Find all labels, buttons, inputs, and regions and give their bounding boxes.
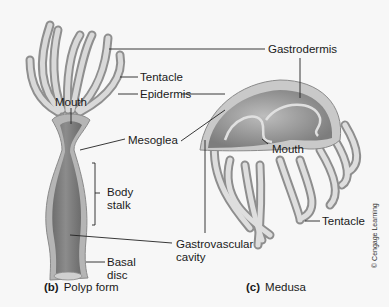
label-mouth-medusa: Mouth	[272, 143, 304, 156]
caption-polyp: (b)Polyp form	[44, 281, 119, 293]
label-basal-disc-line2: disc	[107, 269, 127, 281]
label-gastrovascular-line1: Gastrovascular	[176, 238, 253, 250]
label-body-stalk-line2: stalk	[107, 199, 131, 211]
caption-medusa-letter: (c)	[246, 281, 260, 293]
label-basal-disc: Basal disc	[107, 256, 136, 282]
label-epidermis: Epidermis	[140, 88, 191, 101]
label-mouth-polyp: Mouth	[55, 96, 87, 109]
caption-medusa: (c)Medusa	[246, 281, 306, 293]
label-tentacle-polyp: Tentacle	[140, 71, 183, 84]
label-basal-disc-line1: Basal	[107, 256, 136, 268]
copyright-credit: © Cengage Learning	[371, 203, 378, 268]
caption-polyp-letter: (b)	[44, 281, 59, 293]
label-body-stalk-line1: Body	[107, 186, 133, 198]
caption-medusa-text: Medusa	[265, 281, 306, 293]
label-body-stalk: Body stalk	[107, 186, 133, 212]
label-mesoglea: Mesoglea	[128, 134, 178, 147]
label-gastrovascular-line2: cavity	[176, 251, 205, 263]
label-gastrodermis: Gastrodermis	[268, 43, 337, 56]
label-gastrovascular-cavity: Gastrovascular cavity	[176, 238, 253, 264]
cnidarian-body-forms-diagram: Gastrodermis Tentacle Epidermis Mouth Me…	[0, 0, 389, 307]
polyp-illustration	[30, 25, 121, 280]
caption-polyp-text: Polyp form	[64, 281, 119, 293]
label-tentacle-medusa: Tentacle	[322, 215, 365, 228]
